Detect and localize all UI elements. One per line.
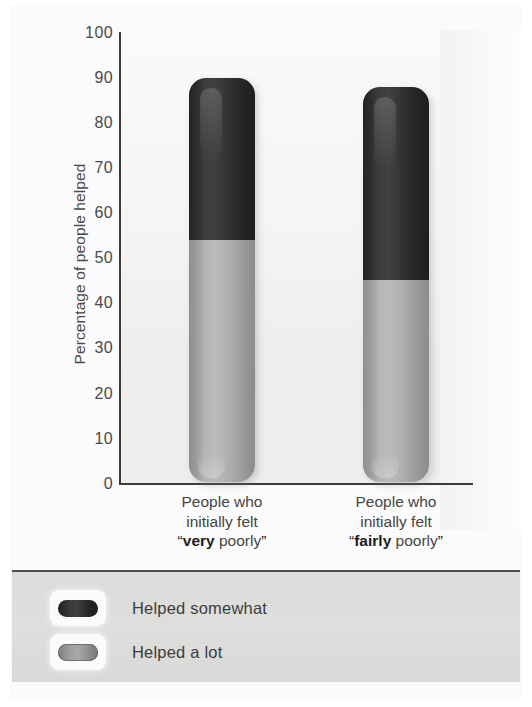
x-category-label-very-poorly: People who initially felt “very poorly” [132, 492, 312, 551]
category-line-1: People who [132, 492, 312, 512]
legend-label: Helped somewhat [132, 599, 267, 618]
bar-segment-helped-somewhat [363, 87, 429, 280]
y-tick-70: 70 [69, 159, 113, 177]
category-line-1: People who [306, 492, 486, 512]
category-line-2: initially felt [306, 512, 486, 532]
light-pill-swatch-icon [58, 644, 98, 661]
y-tick-20: 20 [69, 385, 113, 403]
y-tick-60: 60 [69, 204, 113, 222]
bar-segment-helped-a-lot [363, 280, 429, 482]
bar-foot-highlight [372, 452, 398, 478]
y-tick-100: 100 [69, 24, 113, 42]
y-axis-line [119, 32, 121, 485]
bar-cap-highlight [374, 97, 396, 167]
y-tick-80: 80 [69, 114, 113, 132]
category-emphasis: very [183, 532, 215, 549]
y-tick-30: 30 [69, 339, 113, 357]
legend-label: Helped a lot [132, 643, 222, 662]
y-tick-90: 90 [69, 69, 113, 87]
x-axis-line [119, 483, 473, 485]
category-line-2: initially felt [132, 512, 312, 532]
bar-foot-highlight [198, 452, 224, 478]
bar-segment-helped-somewhat [189, 78, 255, 240]
bar-cap-highlight [200, 88, 222, 158]
y-tick-40: 40 [69, 294, 113, 312]
category-rest: poorly [391, 532, 438, 549]
plot-area-right-wash [440, 30, 525, 530]
legend-swatch-plate [50, 634, 106, 670]
y-tick-0: 0 [69, 475, 113, 493]
chart-figure: Percentage of people helped 100 90 80 70… [0, 0, 532, 707]
legend-item-helped-a-lot: Helped a lot [50, 634, 222, 670]
category-line-3: “very poorly” [132, 531, 312, 551]
y-tick-10: 10 [69, 430, 113, 448]
bar-very-poorly [189, 78, 255, 482]
legend-swatch-plate [50, 590, 106, 626]
category-line-3: “fairly poorly” [306, 531, 486, 551]
bar-fairly-poorly [363, 87, 429, 482]
category-rest: poorly [215, 532, 262, 549]
bar-segment-helped-a-lot [189, 240, 255, 482]
legend-item-helped-somewhat: Helped somewhat [50, 590, 267, 626]
legend-panel: Helped somewhat Helped a lot [12, 572, 520, 682]
quote-close: ” [438, 532, 443, 549]
y-tick-50: 50 [69, 249, 113, 267]
quote-close: ” [261, 532, 266, 549]
dark-pill-swatch-icon [58, 600, 98, 617]
x-category-label-fairly-poorly: People who initially felt “fairly poorly… [306, 492, 486, 551]
category-emphasis: fairly [354, 532, 391, 549]
